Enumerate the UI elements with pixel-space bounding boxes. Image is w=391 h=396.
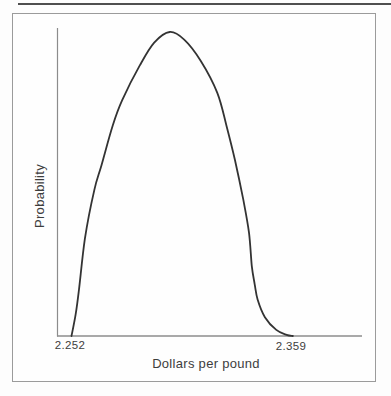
x-tick-label-min: 2.252 [55,339,85,351]
density-curve [72,32,293,336]
x-tick-label-max: 2.359 [276,340,306,352]
probability-chart [0,0,391,396]
figure-canvas: Probability Dollars per pound 2.252 2.35… [0,0,391,396]
x-axis-label: Dollars per pound [152,356,260,371]
y-axis-label: Probability [32,164,47,228]
